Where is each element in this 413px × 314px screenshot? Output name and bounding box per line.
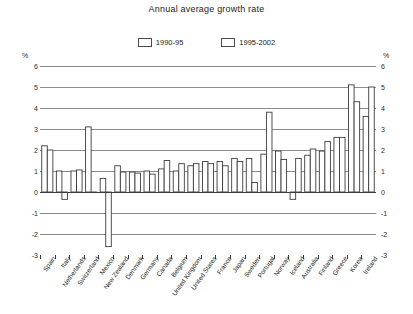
- y-tick-label: 6: [34, 63, 38, 70]
- legend-item-1990-95: 1990-95: [138, 38, 184, 47]
- y-tick-label: -3: [381, 252, 387, 259]
- bar: [296, 158, 302, 192]
- bar: [120, 172, 126, 192]
- y-tick-label: 5: [34, 84, 38, 91]
- bar: [71, 171, 77, 192]
- x-tick-label: Italy: [59, 255, 72, 269]
- bar: [325, 142, 331, 192]
- bar: [179, 164, 185, 192]
- y-tick-label: 1: [381, 168, 385, 175]
- bar: [150, 174, 156, 192]
- x-tick-label-wrap: Spain: [42, 255, 57, 273]
- y-tick-label: 0: [34, 189, 38, 196]
- x-tick-label: Spain: [42, 255, 57, 273]
- bar: [246, 158, 252, 192]
- y-axis-unit-left: %: [22, 52, 28, 59]
- legend-label-1995-2002: 1995-2002: [239, 38, 275, 47]
- bar: [339, 137, 345, 192]
- bar: [252, 183, 258, 192]
- bar: [42, 146, 48, 192]
- bar: [100, 178, 106, 192]
- x-tick-label-wrap: Italy: [59, 255, 72, 269]
- bar: [237, 162, 243, 192]
- x-tick-label: Ireland: [361, 255, 378, 275]
- bar: [115, 166, 121, 192]
- bar: [159, 169, 165, 192]
- y-tick-label: 3: [34, 126, 38, 133]
- bar: [129, 172, 135, 192]
- bar: [202, 162, 208, 192]
- bar: [363, 116, 369, 192]
- legend-label-1990-95: 1990-95: [156, 38, 184, 47]
- y-tick-label: 2: [381, 147, 385, 154]
- bar: [77, 170, 83, 192]
- bar: [62, 192, 68, 199]
- x-tick-label-wrap: Ireland: [361, 255, 378, 275]
- y-tick-label: 0: [381, 189, 385, 196]
- legend-item-1995-2002: 1995-2002: [221, 38, 275, 47]
- bar: [354, 102, 360, 192]
- bar: [47, 150, 53, 192]
- y-tick-label: 2: [34, 147, 38, 154]
- y-axis-unit-right: %: [383, 52, 389, 59]
- y-tick-label: 3: [381, 126, 385, 133]
- bar: [164, 161, 170, 193]
- legend-swatch-1995-2002: [221, 38, 235, 47]
- legend-swatch-1990-95: [138, 38, 152, 47]
- bar: [135, 173, 141, 192]
- y-tick-label: -1: [32, 210, 38, 217]
- chart-title: Annual average growth rate: [0, 4, 413, 14]
- y-tick-label: -2: [32, 231, 38, 238]
- bar: [86, 127, 92, 192]
- y-tick-label: 6: [381, 63, 385, 70]
- y-tick-label: -2: [381, 231, 387, 238]
- bar: [173, 171, 179, 192]
- bar: [305, 155, 311, 192]
- bar: [310, 149, 316, 192]
- bar: [223, 166, 229, 192]
- bar: [266, 112, 272, 192]
- bar: [319, 151, 325, 192]
- bar: [217, 162, 223, 192]
- bar: [275, 151, 281, 192]
- bar: [193, 164, 199, 192]
- bar: [369, 87, 375, 192]
- bar: [144, 171, 150, 192]
- plot-area: [40, 66, 376, 255]
- bar: [106, 192, 112, 247]
- chart-svg: [40, 66, 376, 255]
- bar: [349, 85, 355, 192]
- y-tick-label: 4: [381, 105, 385, 112]
- x-axis-labels: SpainItalyNetherlandsSwitzerlandMexicoNe…: [40, 255, 376, 314]
- y-tick-label: 1: [34, 168, 38, 175]
- y-tick-label: 4: [34, 105, 38, 112]
- chart-legend: 1990-95 1995-2002: [0, 38, 413, 47]
- bar: [281, 159, 287, 192]
- bar: [232, 158, 238, 192]
- bar: [261, 154, 267, 192]
- y-tick-label: -1: [381, 210, 387, 217]
- bar: [188, 166, 194, 192]
- bar: [334, 137, 340, 192]
- bar: [208, 164, 214, 192]
- chart-container: Annual average growth rate 1990-95 1995-…: [0, 0, 413, 314]
- bar: [290, 192, 296, 199]
- y-tick-label: 5: [381, 84, 385, 91]
- bar: [56, 171, 62, 192]
- y-tick-label: -3: [32, 252, 38, 259]
